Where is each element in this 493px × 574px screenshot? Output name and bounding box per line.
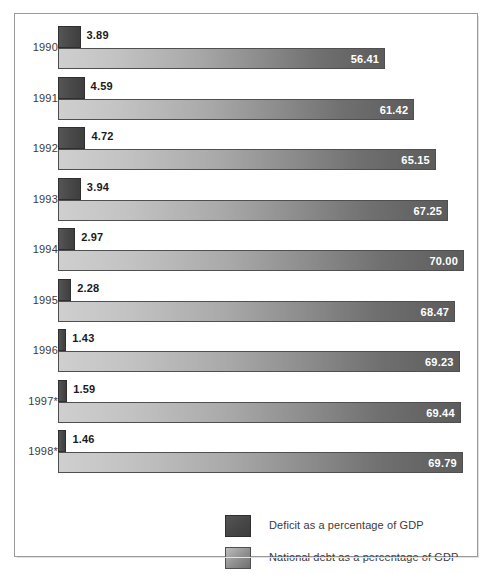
year-label: 1997* [15, 395, 58, 407]
national-debt-value-label: 70.00 [429, 255, 458, 267]
chart-screenshot: 19903.8956.4119914.5961.4219924.7265.151… [0, 0, 493, 574]
bar-national-debt[interactable]: 69.79 [58, 452, 463, 473]
year-label: 1990 [15, 41, 58, 53]
bar-deficit[interactable] [58, 430, 66, 452]
bar-national-debt[interactable]: 61.42 [58, 99, 414, 120]
national-debt-value-label: 69.23 [425, 356, 454, 368]
plot-area: 19903.8956.4119914.5961.4219924.7265.151… [15, 14, 477, 556]
bar-national-debt[interactable]: 65.15 [58, 149, 436, 170]
year-label: 1995 [15, 294, 58, 306]
legend-label-national-debt: National debt as a percentage of GDP [269, 551, 459, 563]
bar-deficit[interactable] [58, 127, 85, 149]
bar-national-debt[interactable]: 56.41 [58, 48, 385, 69]
bar-national-debt[interactable]: 69.44 [58, 402, 461, 423]
bar-deficit[interactable] [58, 380, 67, 402]
chart-row: 19952.2868.47 [15, 277, 477, 327]
deficit-value-label: 3.94 [87, 181, 109, 193]
national-debt-value-label: 65.15 [401, 154, 430, 166]
national-debt-value-label: 69.79 [428, 457, 457, 469]
year-label: 1992 [15, 142, 58, 154]
legend-item-deficit: Deficit as a percentage of GDP [225, 511, 475, 543]
year-label: 1996 [15, 344, 58, 356]
deficit-value-label: 1.43 [72, 332, 94, 344]
deficit-value-label: 4.72 [91, 130, 113, 142]
bar-deficit[interactable] [58, 77, 85, 99]
deficit-value-label: 2.28 [77, 282, 99, 294]
chart-legend: Deficit as a percentage of GDP National … [225, 511, 475, 574]
bar-national-debt[interactable]: 67.25 [58, 200, 448, 221]
deficit-value-label: 4.59 [91, 80, 113, 92]
deficit-value-label: 1.59 [73, 383, 95, 395]
national-debt-value-label: 68.47 [421, 306, 450, 318]
national-debt-value-label: 69.44 [426, 407, 455, 419]
chart-row: 19961.4369.23 [15, 327, 477, 377]
bar-deficit[interactable] [58, 26, 81, 48]
bar-national-debt[interactable]: 69.23 [58, 351, 460, 372]
chart-row: 19933.9467.25 [15, 176, 477, 226]
chart-row: 19924.7265.15 [15, 125, 477, 175]
chart-row: 1998*1.4669.79 [15, 428, 477, 478]
bar-deficit[interactable] [58, 228, 75, 250]
legend-swatch-national-debt-icon [225, 547, 251, 569]
chart-frame: 19903.8956.4119914.5961.4219924.7265.151… [14, 13, 478, 557]
national-debt-value-label: 56.41 [351, 53, 380, 65]
deficit-value-label: 1.46 [72, 433, 94, 445]
legend-item-national-debt: National debt as a percentage of GDP [225, 543, 475, 574]
bar-national-debt[interactable]: 70.00 [58, 250, 464, 271]
bar-deficit[interactable] [58, 279, 71, 301]
year-label: 1994 [15, 243, 58, 255]
bar-deficit[interactable] [58, 329, 66, 351]
deficit-value-label: 2.97 [81, 231, 103, 243]
year-label: 1993 [15, 193, 58, 205]
chart-row: 1997*1.5969.44 [15, 378, 477, 428]
bar-deficit[interactable] [58, 178, 81, 200]
year-label: 1998* [15, 445, 58, 457]
national-debt-value-label: 61.42 [380, 104, 409, 116]
bar-national-debt[interactable]: 68.47 [58, 301, 455, 322]
chart-row: 19903.8956.41 [15, 24, 477, 74]
national-debt-value-label: 67.25 [414, 205, 443, 217]
legend-label-deficit: Deficit as a percentage of GDP [269, 519, 424, 531]
deficit-value-label: 3.89 [87, 29, 109, 41]
legend-swatch-deficit-icon [225, 515, 251, 537]
chart-row: 19914.5961.42 [15, 75, 477, 125]
chart-row: 19942.9770.00 [15, 226, 477, 276]
year-label: 1991 [15, 92, 58, 104]
